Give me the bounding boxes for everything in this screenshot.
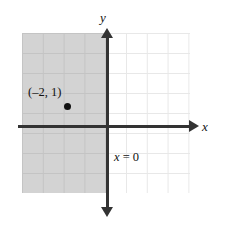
x-axis-label: x	[202, 120, 208, 133]
coordinate-plane-figure: y x (–2, 1) x = 0	[0, 0, 226, 232]
boundary-equation-rest: = 0	[120, 150, 140, 164]
boundary-equation-label: x = 0	[114, 151, 139, 164]
plotted-point-dot	[64, 103, 71, 110]
plotted-point-label: (–2, 1)	[28, 86, 61, 99]
x-axis-line	[18, 125, 192, 128]
x-axis-right-arrow-icon	[189, 120, 199, 132]
shaded-region-x-less-than-zero	[22, 33, 107, 193]
y-axis-label: y	[100, 11, 106, 24]
y-axis-line	[106, 36, 109, 211]
y-axis-down-arrow-icon	[101, 207, 113, 217]
y-axis-up-arrow-icon	[101, 28, 113, 38]
